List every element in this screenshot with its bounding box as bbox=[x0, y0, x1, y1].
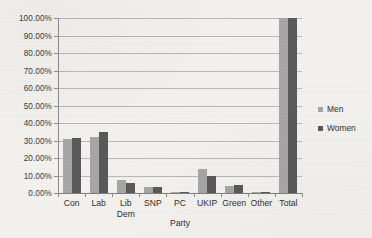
x-axis-title: Party bbox=[58, 218, 302, 228]
y-axis-tick-label: 20.00% bbox=[24, 154, 52, 163]
y-axis-tick-label: 0.00% bbox=[28, 189, 52, 198]
x-axis-line bbox=[58, 193, 303, 194]
x-axis-label-green: Green bbox=[221, 198, 248, 209]
bar-group bbox=[139, 18, 166, 193]
bar-women-green bbox=[234, 185, 243, 193]
x-axis-tick bbox=[275, 193, 276, 197]
x-axis-tick bbox=[248, 193, 249, 197]
y-axis-tick bbox=[54, 123, 58, 124]
bar-men-lab bbox=[90, 137, 99, 193]
y-axis-tick-label: 30.00% bbox=[24, 136, 52, 145]
bar-group bbox=[275, 18, 302, 193]
y-axis-tick-label: 60.00% bbox=[24, 84, 52, 93]
y-axis-tick-label: 100.00% bbox=[19, 14, 52, 23]
x-axis-tick bbox=[194, 193, 195, 197]
plot-area bbox=[58, 18, 302, 193]
y-axis-tick-label: 50.00% bbox=[24, 101, 52, 110]
y-axis-tick bbox=[54, 53, 58, 54]
y-axis-tick-label: 70.00% bbox=[24, 66, 52, 75]
y-axis-tick-label: 40.00% bbox=[24, 119, 52, 128]
bar-chart: 0.00%10.00%20.00%30.00%40.00%50.00%60.00… bbox=[0, 0, 372, 238]
bar-group bbox=[85, 18, 112, 193]
y-axis-tick-label: 90.00% bbox=[24, 31, 52, 40]
x-axis-tick bbox=[112, 193, 113, 197]
bar-group bbox=[112, 18, 139, 193]
y-axis-tick bbox=[54, 88, 58, 89]
y-axis-tick bbox=[54, 18, 58, 19]
x-axis-tick bbox=[58, 193, 59, 197]
bar-women-lab bbox=[99, 132, 108, 193]
x-axis-label-lab: Lab bbox=[85, 198, 112, 209]
y-axis-tick bbox=[54, 71, 58, 72]
y-axis-tick bbox=[54, 106, 58, 107]
legend-item-women: Women bbox=[318, 123, 356, 133]
y-axis-tick-label: 80.00% bbox=[24, 49, 52, 58]
y-axis-tick bbox=[54, 176, 58, 177]
y-axis-tick bbox=[54, 36, 58, 37]
x-axis-label-ukip: UKIP bbox=[194, 198, 221, 209]
bar-group bbox=[194, 18, 221, 193]
x-axis-tick bbox=[85, 193, 86, 197]
legend-swatch-women bbox=[318, 126, 323, 131]
x-axis-label-total: Total bbox=[275, 198, 302, 209]
bar-men-lib-dem bbox=[117, 180, 126, 193]
x-axis-label-other: Other bbox=[248, 198, 275, 209]
y-axis-tick bbox=[54, 158, 58, 159]
x-axis-tick bbox=[166, 193, 167, 197]
chart-legend: Men Women bbox=[318, 104, 356, 142]
bar-group bbox=[221, 18, 248, 193]
bar-women-total bbox=[288, 18, 297, 193]
bar-men-ukip bbox=[198, 169, 207, 193]
legend-swatch-men bbox=[318, 107, 323, 112]
x-axis-label-con: Con bbox=[58, 198, 85, 209]
legend-label-women: Women bbox=[327, 123, 356, 133]
bar-group bbox=[58, 18, 85, 193]
bar-women-ukip bbox=[207, 176, 216, 194]
y-axis-tick-label: 10.00% bbox=[24, 171, 52, 180]
y-axis-tick bbox=[54, 141, 58, 142]
bar-men-con bbox=[63, 139, 72, 193]
bar-group bbox=[248, 18, 275, 193]
x-axis-tick bbox=[302, 193, 303, 197]
x-axis-label-lib-dem: Lib Dem bbox=[112, 198, 139, 219]
legend-item-men: Men bbox=[318, 104, 356, 114]
y-axis-line bbox=[58, 18, 59, 194]
x-axis-tick bbox=[139, 193, 140, 197]
bar-women-con bbox=[72, 138, 81, 193]
bar-group bbox=[166, 18, 193, 193]
x-axis-label-pc: PC bbox=[166, 198, 193, 209]
x-axis-label-snp: SNP bbox=[139, 198, 166, 209]
x-axis-tick bbox=[221, 193, 222, 197]
bar-men-total bbox=[279, 18, 288, 193]
bar-women-lib-dem bbox=[126, 183, 135, 193]
legend-label-men: Men bbox=[327, 104, 343, 114]
bar-men-green bbox=[225, 186, 234, 193]
